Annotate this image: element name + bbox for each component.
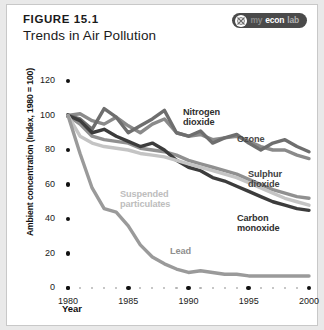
myeconlab-circle-icon [235,15,247,27]
series-label-line: dioxide [248,180,282,190]
series-label-suspended-particulates: Suspendedparticulates [120,190,170,210]
series-label-ozone: Ozone [237,135,265,145]
series-label-line: particulates [120,200,170,210]
chart-plot-area: Ambient concentration (Index, 1980 = 100… [7,51,317,325]
series-label-line: Ozone [237,135,265,145]
figure-card: FIGURE 15.1 Trends in Air Pollution my e… [6,4,318,326]
x-axis-title: Year [47,303,97,314]
series-label-line: Lead [170,247,191,257]
series-label-carbon-monoxide: Carbonmonoxide [237,214,280,234]
series-label-lead: Lead [170,247,191,257]
logo-text-my: my [250,16,262,25]
page-title: Trends in Air Pollution [23,28,156,43]
logo-text-lab: lab [287,16,299,25]
logo-text-econ: econ [265,16,284,25]
myeconlab-logo[interactable]: my econ lab [232,13,307,28]
series-label-nitrogen-dioxide: Nitrogendioxide [183,108,220,128]
series-label-line: monoxide [237,224,280,234]
series-label-line: dioxide [183,118,220,128]
figure-number: FIGURE 15.1 [23,13,99,25]
figure-header: FIGURE 15.1 Trends in Air Pollution my e… [7,5,317,51]
series-label-sulphur-dioxide: Sulphurdioxide [248,170,282,190]
